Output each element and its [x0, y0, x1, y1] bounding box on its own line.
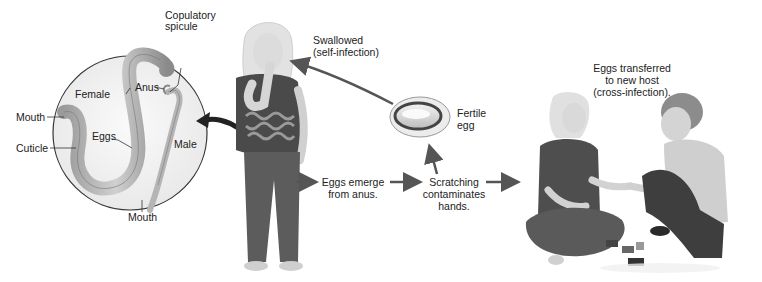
pinworm-life-cycle-diagram: Copulatory spicule Female Anus Mouth Egg…: [0, 0, 762, 282]
label-cuticle: Cuticle: [16, 142, 48, 154]
label-line: (cross-infection).: [584, 86, 680, 98]
label-eggs-transferred: Eggs transferred to new host (cross-infe…: [584, 62, 680, 98]
to-egg-arrow: [430, 148, 437, 174]
label-line: Swallowed: [313, 34, 379, 46]
label-line: contaminates: [420, 188, 488, 200]
girl-standing-illustration: [236, 22, 304, 271]
label-male: Male: [174, 138, 197, 150]
label-line: Eggs transferred: [584, 62, 680, 74]
children-playing-illustration: [526, 92, 728, 273]
label-eggs-emerge: Eggs emerge from anus.: [318, 176, 388, 200]
label-anus: Anus: [135, 81, 159, 93]
label-scratching: Scratching contaminates hands.: [420, 176, 488, 212]
label-line: egg: [457, 119, 486, 131]
label-mouth-female: Mouth: [16, 111, 45, 123]
label-line: (self-infection): [313, 46, 379, 58]
label-line: hands.: [420, 200, 488, 212]
label-swallowed: Swallowed (self-infection): [313, 34, 379, 58]
label-line: Scratching: [420, 176, 488, 188]
label-line: Fertile: [457, 107, 486, 119]
zoom-arrow: [206, 119, 238, 128]
label-female: Female: [75, 88, 110, 100]
label-mouth-male: Mouth: [128, 211, 157, 223]
fertile-egg-illustration: [390, 97, 450, 137]
label-fertile-egg: Fertile egg: [457, 107, 486, 131]
label-line: Eggs emerge: [318, 176, 388, 188]
swallowed-arrow: [294, 62, 393, 104]
label-line: to new host: [584, 74, 680, 86]
label-line: from anus.: [318, 188, 388, 200]
label-copulatory-spicule: Copulatory spicule: [165, 10, 216, 32]
label-eggs: Eggs: [92, 130, 116, 142]
label-line: spicule: [165, 21, 216, 32]
worm-inset: [47, 54, 207, 212]
